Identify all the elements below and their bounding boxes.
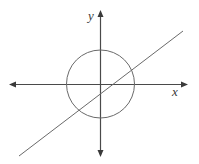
figure-canvas: y x: [0, 0, 199, 164]
y-axis-bottom-arrowhead: [98, 150, 104, 157]
x-axis-left-arrowhead: [9, 82, 16, 88]
coordinate-plane-svg: [0, 0, 199, 164]
y-axis-label: y: [88, 9, 94, 22]
x-axis-right-arrowhead: [181, 82, 188, 88]
y-axis-top-arrowhead: [98, 10, 104, 17]
x-axis-label: x: [172, 85, 178, 98]
